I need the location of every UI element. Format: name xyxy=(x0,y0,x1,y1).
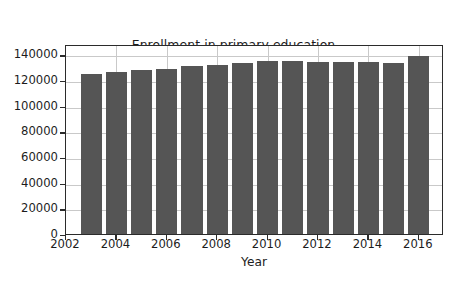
x-axis-tick-label: 2014 xyxy=(353,237,383,251)
bar-2010 xyxy=(257,61,278,234)
y-axis-tick-label: 40000 xyxy=(0,176,58,190)
x-axis-tick-label: 2004 xyxy=(101,237,131,251)
y-axis-tick-label: 120000 xyxy=(0,73,58,87)
bar-2003 xyxy=(81,74,102,234)
x-axis-tick-labels: 20022004200620082010201220142016 xyxy=(0,237,467,253)
x-axis-tick-label: 2016 xyxy=(403,237,433,251)
x-axis-title: Year xyxy=(65,255,443,269)
y-axis-tick-label: 80000 xyxy=(0,124,58,138)
bar-2011 xyxy=(282,61,303,234)
bar-2015 xyxy=(383,63,404,234)
figure-canvas: Enrollment in primary education in India… xyxy=(0,0,467,283)
bar-2005 xyxy=(131,70,152,234)
bar-2014 xyxy=(358,62,379,234)
x-axis-tick-label: 2012 xyxy=(302,237,332,251)
bar-2013 xyxy=(333,62,354,234)
bars-layer xyxy=(66,46,442,234)
x-axis-tick-label: 2008 xyxy=(201,237,231,251)
y-axis-tick-label: 140000 xyxy=(0,47,58,61)
x-axis-tick-label: 2010 xyxy=(252,237,282,251)
bar-2004 xyxy=(106,72,127,234)
bar-2016 xyxy=(408,56,429,234)
bar-2006 xyxy=(156,69,177,234)
y-axis-tick-label: 20000 xyxy=(0,201,58,215)
x-axis-tick-label: 2006 xyxy=(151,237,181,251)
plot-area xyxy=(65,45,443,235)
bar-2012 xyxy=(307,62,328,234)
y-axis-tick-label: 60000 xyxy=(0,150,58,164)
y-axis-tick-label: 100000 xyxy=(0,99,58,113)
x-axis-tick-label: 2002 xyxy=(50,237,80,251)
bar-2007 xyxy=(181,66,202,234)
bar-2008 xyxy=(207,65,228,234)
bar-2009 xyxy=(232,63,253,234)
